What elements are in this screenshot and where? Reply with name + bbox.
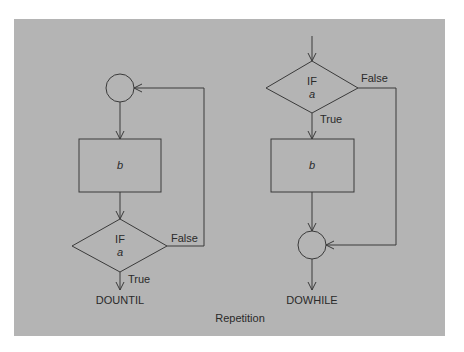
repetition-diagram: b IF a False True DOUNTIL IF a False Tru… [0, 0, 464, 352]
dowhile-process-label: b [309, 159, 315, 171]
dowhile-title: DOWHILE [286, 294, 337, 306]
dowhile-false-label: False [361, 72, 388, 84]
dountil-decision-condition: a [117, 246, 123, 258]
dountil-false-label: False [171, 232, 198, 244]
dountil-decision-keyword: IF [115, 233, 125, 245]
dountil-title: DOUNTIL [96, 294, 144, 306]
dountil-process-label: b [117, 159, 123, 171]
dowhile-decision-condition: a [309, 88, 315, 100]
dowhile-false-bypass-arrow [326, 88, 396, 245]
dowhile-decision-keyword: IF [307, 75, 317, 87]
dountil-false-loop-arrow [134, 88, 204, 246]
dowhile-decision-diamond [266, 61, 358, 113]
dowhile-true-label: True [320, 113, 342, 125]
dountil-flowchart [72, 74, 204, 290]
dountil-true-label: True [128, 273, 150, 285]
dountil-connector-circle [106, 74, 134, 102]
dowhile-connector-circle [298, 231, 326, 259]
figure-caption: Repetition [215, 312, 265, 324]
